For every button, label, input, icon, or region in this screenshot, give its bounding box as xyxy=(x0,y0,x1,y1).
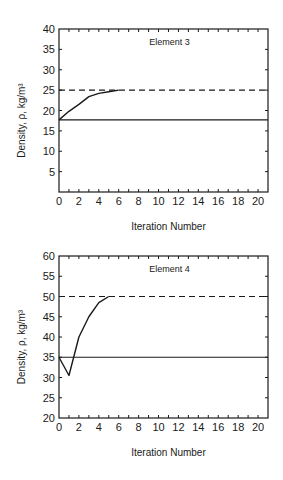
y-tick-label: 25 xyxy=(43,392,55,404)
x-tick-label: 8 xyxy=(136,195,142,207)
plot-frame xyxy=(59,29,268,192)
x-tick-label: 12 xyxy=(172,195,184,207)
x-tick-label: 2 xyxy=(76,421,82,433)
y-axis-label: Density, ρ, kg/m³ xyxy=(16,309,27,384)
iterated-density-line xyxy=(59,90,119,120)
x-tick-label: 4 xyxy=(96,195,102,207)
x-tick-label: 4 xyxy=(96,421,102,433)
plot-frame xyxy=(59,256,268,418)
y-tick-label: 35 xyxy=(43,351,55,363)
iterated-density-line xyxy=(59,297,109,376)
y-tick-label: 40 xyxy=(43,331,55,343)
chart-title: Element 3 xyxy=(149,37,190,47)
y-tick-label: 50 xyxy=(43,291,55,303)
y-tick-label: 30 xyxy=(43,64,55,76)
x-tick-label: 14 xyxy=(192,195,204,207)
y-tick-label: 35 xyxy=(43,43,55,55)
y-tick-label: 25 xyxy=(43,84,55,96)
x-tick-label: 6 xyxy=(116,195,122,207)
x-tick-label: 20 xyxy=(252,421,264,433)
y-axis-label: Density, ρ, kg/m³ xyxy=(16,83,27,158)
x-tick-label: 18 xyxy=(232,421,244,433)
x-tick-label: 16 xyxy=(212,421,224,433)
y-tick-label: 20 xyxy=(43,412,55,424)
y-tick-label: 60 xyxy=(43,250,55,262)
x-tick-label: 14 xyxy=(192,421,204,433)
x-tick-label: 10 xyxy=(152,421,164,433)
chart-svg: 02468101214161820202530354045505560Eleme… xyxy=(0,240,283,480)
y-tick-label: 20 xyxy=(43,105,55,117)
chart-title: Element 4 xyxy=(149,264,190,274)
y-tick-label: 5 xyxy=(49,166,55,178)
x-tick-label: 8 xyxy=(136,421,142,433)
chart-element-3: 02468101214161820510152025303540Element … xyxy=(0,0,283,240)
y-tick-label: 15 xyxy=(43,125,55,137)
chart-element-4: 02468101214161820202530354045505560Eleme… xyxy=(0,240,283,480)
y-tick-label: 40 xyxy=(43,23,55,35)
x-axis-label: Iteration Number xyxy=(131,447,206,458)
x-tick-label: 6 xyxy=(116,421,122,433)
chart-svg: 02468101214161820510152025303540Element … xyxy=(0,0,283,240)
x-tick-label: 10 xyxy=(152,195,164,207)
y-tick-label: 45 xyxy=(43,311,55,323)
x-tick-label: 20 xyxy=(252,195,264,207)
x-tick-label: 2 xyxy=(76,195,82,207)
x-axis-label: Iteration Number xyxy=(131,221,206,232)
y-tick-label: 10 xyxy=(43,145,55,157)
y-tick-label: 55 xyxy=(43,270,55,282)
x-tick-label: 18 xyxy=(232,195,244,207)
x-tick-label: 0 xyxy=(56,421,62,433)
x-tick-label: 0 xyxy=(56,195,62,207)
x-tick-label: 12 xyxy=(172,421,184,433)
y-tick-label: 30 xyxy=(43,372,55,384)
x-tick-label: 16 xyxy=(212,195,224,207)
